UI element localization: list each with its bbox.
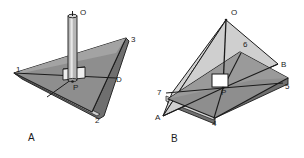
label-5-b: 5 xyxy=(285,82,290,91)
point-o-b xyxy=(225,19,228,22)
label-o-a: O xyxy=(80,8,86,17)
label-4-b: 4 xyxy=(212,119,217,128)
panel-a-group: O 1 3 D 2 P A xyxy=(14,8,136,143)
post-highlight xyxy=(71,17,73,79)
label-6-b: 6 xyxy=(243,40,248,49)
label-d-a: D xyxy=(116,75,122,84)
label-1-a: 1 xyxy=(16,65,21,74)
right-angle-marker xyxy=(212,74,228,87)
geometry-figure: O 1 3 D 2 P A xyxy=(0,0,304,158)
label-p-b: P xyxy=(221,88,226,97)
caption-b: B xyxy=(171,133,178,144)
label-o-b: O xyxy=(231,8,237,17)
label-2-a: 2 xyxy=(95,116,100,125)
figure-canvas: O 1 3 D 2 P A xyxy=(0,0,304,158)
panel-b-group: O 6 B 5 7 A P 4 B xyxy=(155,8,290,144)
label-7-b: 7 xyxy=(157,88,162,97)
label-p-a: P xyxy=(73,83,78,92)
caption-a: A xyxy=(28,132,35,143)
label-3-a: 3 xyxy=(131,35,136,44)
label-b-b: B xyxy=(281,60,286,69)
label-a-b: A xyxy=(155,113,161,122)
